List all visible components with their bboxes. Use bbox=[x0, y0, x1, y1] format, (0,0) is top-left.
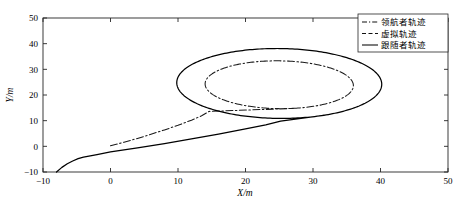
legend-label-2: 虚拟轨迹 bbox=[381, 29, 417, 39]
x-tick-label: 50 bbox=[444, 176, 454, 186]
trajectory-chart: −1001020304050 −1001020304050 X/m Y/m 领航… bbox=[0, 0, 468, 213]
legend-label-1: 领航者轨迹 bbox=[381, 17, 426, 27]
legend-label-3: 跟随者轨迹 bbox=[381, 40, 426, 50]
x-tick-label: 0 bbox=[108, 176, 113, 186]
figure-container: −1001020304050 −1001020304050 X/m Y/m 领航… bbox=[0, 0, 468, 213]
y-tick-label: 50 bbox=[29, 13, 39, 23]
series-path-3 bbox=[57, 49, 382, 173]
y-tick-label: 10 bbox=[29, 116, 39, 126]
x-axis-title: X/m bbox=[236, 188, 252, 198]
y-tick-label: 30 bbox=[29, 65, 39, 75]
y-axis-title: Y/m bbox=[5, 87, 15, 102]
y-tick-label: 0 bbox=[34, 142, 39, 152]
y-tick-label: 20 bbox=[29, 90, 39, 100]
y-tick-label: −10 bbox=[24, 167, 39, 177]
data-series-group bbox=[57, 49, 382, 173]
x-tick-label: 40 bbox=[376, 176, 386, 186]
x-tick-label: 30 bbox=[309, 176, 319, 186]
y-tick-label: 40 bbox=[29, 39, 39, 49]
series-path-1 bbox=[111, 61, 354, 146]
x-tick-label: 10 bbox=[174, 176, 184, 186]
x-tick-label: 20 bbox=[241, 176, 251, 186]
chart-legend[interactable]: 领航者轨迹虚拟轨迹跟随者轨迹 bbox=[358, 14, 448, 52]
x-tick-label: −10 bbox=[36, 176, 51, 186]
